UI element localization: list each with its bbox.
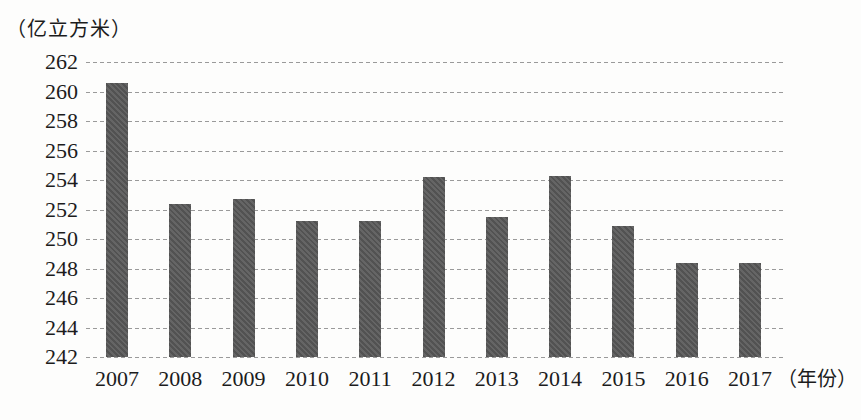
gridline <box>86 357 783 358</box>
x-tick-label: 2013 <box>465 366 529 392</box>
bar-2008 <box>169 204 191 357</box>
x-tick-label: 2009 <box>212 366 276 392</box>
y-tick-label: 244 <box>0 315 78 341</box>
y-tick-label: 254 <box>0 167 78 193</box>
y-tick-label: 260 <box>0 79 78 105</box>
gridline <box>86 151 783 152</box>
gridline <box>86 92 783 93</box>
x-tick-label: 2011 <box>338 366 402 392</box>
plot-area <box>86 62 783 357</box>
bar-2014 <box>549 176 571 357</box>
bar-2011 <box>359 221 381 357</box>
bar-2015 <box>612 226 634 357</box>
gridline <box>86 121 783 122</box>
x-tick-label: 2015 <box>591 366 655 392</box>
x-tick-label: 2014 <box>528 366 592 392</box>
y-axis-unit-label: （亿立方米） <box>6 13 132 42</box>
y-tick-label: 252 <box>0 197 78 223</box>
bar-chart: （亿立方米） （年份） 2422442462482502522542562582… <box>0 0 861 420</box>
x-tick-label: 2007 <box>85 366 149 392</box>
bar-2007 <box>106 83 128 357</box>
y-tick-label: 250 <box>0 226 78 252</box>
bar-2013 <box>486 217 508 357</box>
x-tick-label: 2017 <box>718 366 782 392</box>
x-tick-label: 2008 <box>148 366 212 392</box>
x-tick-label: 2016 <box>655 366 719 392</box>
bar-2009 <box>233 199 255 357</box>
y-tick-label: 256 <box>0 138 78 164</box>
bar-2017 <box>739 263 761 357</box>
x-axis-unit-label: （年份） <box>777 366 857 392</box>
x-tick-label: 2010 <box>275 366 339 392</box>
bar-2010 <box>296 221 318 357</box>
bar-2012 <box>423 177 445 357</box>
y-tick-label: 258 <box>0 108 78 134</box>
y-tick-label: 246 <box>0 285 78 311</box>
y-tick-label: 242 <box>0 344 78 370</box>
x-tick-label: 2012 <box>402 366 466 392</box>
bar-2016 <box>676 263 698 357</box>
y-tick-label: 248 <box>0 256 78 282</box>
y-tick-label: 262 <box>0 49 78 75</box>
gridline <box>86 62 783 63</box>
